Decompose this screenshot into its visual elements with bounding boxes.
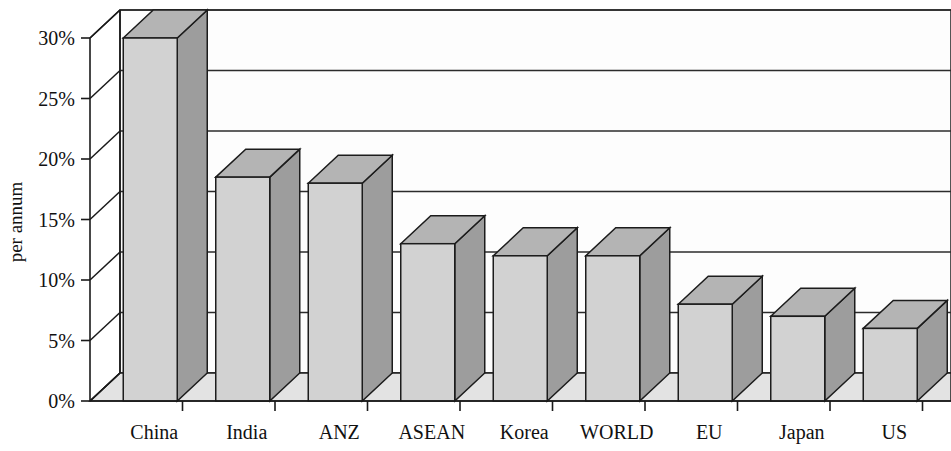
- y-tick-label: 10%: [38, 269, 75, 291]
- x-category-label: India: [226, 421, 267, 443]
- bar-front-face: [216, 177, 270, 401]
- bar-chart-3d: 0%5%10%15%20%25%30% ChinaIndiaANZASEANKo…: [0, 0, 951, 451]
- plot-left-wall: [90, 10, 120, 373]
- bar-front-face: [308, 183, 362, 401]
- bar-column: [771, 288, 855, 401]
- y-tick-label: 25%: [38, 88, 75, 110]
- y-tick-label: 20%: [38, 148, 75, 170]
- bar-column: [216, 149, 300, 401]
- x-category-label: ANZ: [319, 421, 360, 443]
- bar-front-face: [678, 304, 732, 401]
- x-axis-ticks: [183, 401, 923, 411]
- bar-side-face: [455, 216, 485, 401]
- bar-column: [493, 228, 577, 401]
- depth-connector-lines: [90, 10, 120, 401]
- bar-column: [678, 276, 762, 401]
- y-tick-label: 30%: [38, 27, 75, 49]
- bar-side-face: [547, 228, 577, 401]
- chart-container: 0%5%10%15%20%25%30% ChinaIndiaANZASEANKo…: [0, 0, 951, 451]
- bar-front-face: [493, 256, 547, 401]
- depth-connector: [90, 131, 120, 159]
- y-tick-label: 5%: [48, 330, 75, 352]
- depth-connector: [90, 313, 120, 341]
- x-category-label: US: [881, 421, 907, 443]
- x-category-label: Japan: [779, 421, 825, 444]
- bar-column: [401, 216, 485, 401]
- bar-front-face: [586, 256, 640, 401]
- bar-front-face: [863, 328, 917, 401]
- depth-connector: [90, 192, 120, 220]
- y-tick-label: 15%: [38, 209, 75, 231]
- x-category-label: EU: [696, 421, 723, 443]
- x-axis-category-labels: ChinaIndiaANZASEANKoreaWORLDEUJapanUS: [130, 421, 907, 444]
- bar-front-face: [401, 244, 455, 401]
- bar-column: [123, 10, 207, 401]
- bar-column: [586, 228, 670, 401]
- x-category-label: WORLD: [580, 421, 653, 443]
- bar-side-face: [640, 228, 670, 401]
- x-category-label: ASEAN: [398, 421, 465, 443]
- y-axis-tick-labels: 0%5%10%15%20%25%30%: [38, 27, 75, 412]
- top-left-depth-edge: [90, 10, 120, 38]
- bar-side-face: [177, 10, 207, 401]
- x-category-label: China: [130, 421, 178, 443]
- bar-front-face: [771, 316, 825, 401]
- bar-side-face: [362, 155, 392, 401]
- y-axis-title: per annum: [5, 181, 26, 262]
- bar-column: [308, 155, 392, 401]
- y-tick-label: 0%: [48, 390, 75, 412]
- y-axis-ticks: [81, 38, 90, 401]
- depth-connector: [90, 252, 120, 280]
- x-category-label: Korea: [500, 421, 549, 443]
- depth-connector: [90, 71, 120, 99]
- bar-front-face: [123, 38, 177, 401]
- bar-side-face: [270, 149, 300, 401]
